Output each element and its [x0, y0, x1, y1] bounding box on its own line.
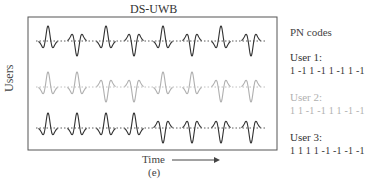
uwb-pulse — [153, 26, 172, 48]
uwb-pulse — [153, 121, 172, 143]
uwb-pulse — [153, 72, 172, 94]
uwb-pulse — [182, 121, 201, 143]
arrow-head-icon — [214, 157, 220, 163]
user-name: User 2: — [290, 90, 365, 104]
uwb-pulse — [67, 72, 86, 94]
diagram-frame — [28, 17, 277, 150]
uwb-pulse — [211, 121, 230, 143]
x-axis-label: Time — [142, 153, 165, 165]
uwb-pulse — [182, 34, 201, 56]
figure-sublabel: (e) — [148, 166, 160, 178]
uwb-pulse — [38, 26, 57, 48]
uwb-pulse — [241, 121, 260, 143]
uwb-pulse — [67, 34, 86, 56]
uwb-pulse — [96, 113, 115, 135]
uwb-pulse — [211, 80, 230, 102]
uwb-pulse — [241, 34, 260, 56]
uwb-pulse — [241, 80, 260, 102]
uwb-pulse — [124, 80, 143, 102]
legend-user-3: User 3: 1 1 1 1 -1 -1 -1 -1 — [290, 130, 365, 158]
legend-heading: PN codes — [290, 26, 365, 38]
legend-user-2: User 2: 1 1 -1 -1 1 1 -1 -1 — [290, 90, 365, 118]
legend-user-1: User 1: 1 -1 1 -1 1 -1 1 -1 — [290, 50, 365, 78]
uwb-pulse — [211, 26, 230, 48]
uwb-pulse — [67, 113, 86, 135]
uwb-pulse — [38, 72, 57, 94]
diagram-title: DS-UWB — [130, 2, 177, 17]
time-label: Time — [142, 153, 165, 165]
uwb-pulse — [38, 113, 57, 135]
uwb-pulse — [124, 34, 143, 56]
uwb-pulse — [182, 72, 201, 94]
uwb-pulse — [96, 26, 115, 48]
uwb-pulse — [124, 113, 143, 135]
uwb-pulse — [96, 80, 115, 102]
user-code: 1 1 -1 -1 1 1 -1 -1 — [290, 104, 365, 118]
y-axis-label: Users — [2, 65, 17, 92]
user-code: 1 1 1 1 -1 -1 -1 -1 — [290, 144, 365, 158]
user-name: User 1: — [290, 50, 365, 64]
user-name: User 3: — [290, 130, 365, 144]
pn-code-legend: PN codes User 1: 1 -1 1 -1 1 -1 1 -1 Use… — [290, 26, 365, 170]
user-code: 1 -1 1 -1 1 -1 1 -1 — [290, 64, 365, 78]
